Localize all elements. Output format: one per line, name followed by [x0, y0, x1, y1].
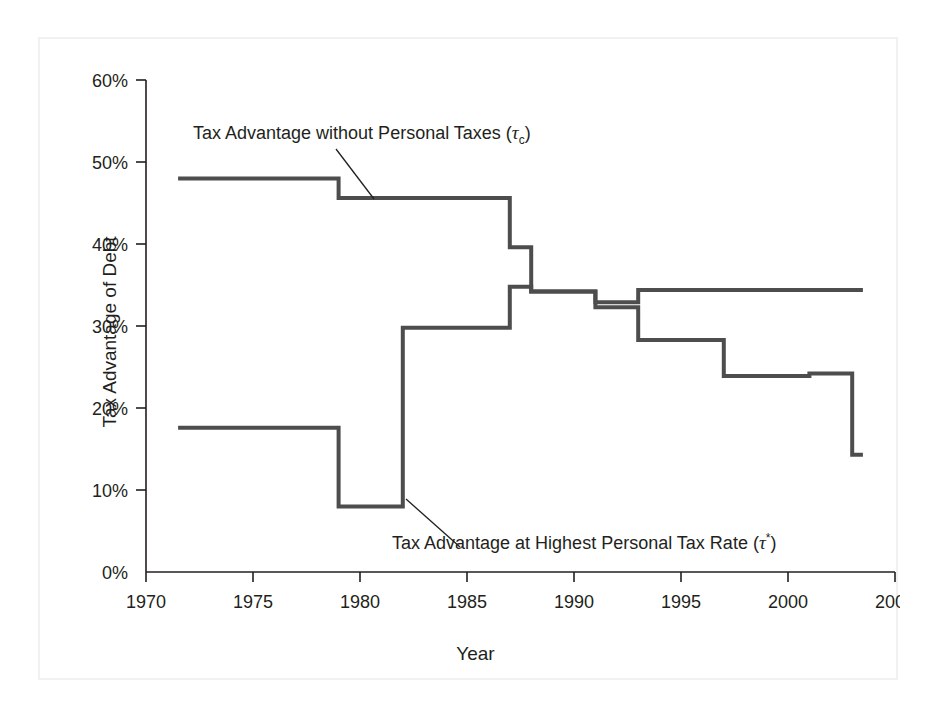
x-tick-label: 1990: [554, 592, 594, 612]
x-axis-title: Year: [0, 643, 951, 665]
y-tick-label: 0%: [102, 563, 128, 583]
lower-series-annotation: Tax Advantage at Highest Personal Tax Ra…: [392, 531, 776, 553]
figure-container: 60% 50% 40% 30% 20% 10% 0% 1970 1975 198…: [0, 0, 951, 716]
upper-annotation-text: Tax Advantage without Personal Taxes (: [193, 123, 512, 143]
y-axis-title: Tax Advantage of Debt: [99, 236, 120, 427]
axis-lines: [146, 80, 895, 572]
x-tick-label: 2000: [768, 592, 808, 612]
x-tick-marks: [146, 572, 895, 582]
upper-annotation-suffix: ): [525, 123, 531, 143]
lower-annotation-suffix: ): [770, 533, 776, 553]
y-tick-marks: [136, 80, 146, 490]
upper-series-annotation: Tax Advantage without Personal Taxes (τc…: [193, 122, 531, 147]
lower-annotation-text: Tax Advantage at Highest Personal Tax Ra…: [392, 533, 759, 553]
x-tick-labels: 1970 1975 1980 1985 1990 1995 2000 2005: [126, 592, 900, 612]
series-line-tax-advantage-without-personal-taxes: [178, 178, 863, 302]
chart-plot-area: 60% 50% 40% 30% 20% 10% 0% 1970 1975 198…: [40, 39, 900, 682]
x-tick-label: 1985: [447, 592, 487, 612]
x-tick-label: 1970: [126, 592, 166, 612]
x-tick-label: 2005: [875, 592, 900, 612]
x-tick-label: 1975: [233, 592, 273, 612]
y-axis-title-wrapper: Tax Advantage of Debt: [99, 202, 125, 462]
x-tick-label: 1980: [340, 592, 380, 612]
y-tick-label: 50%: [92, 153, 128, 173]
y-tick-label: 60%: [92, 71, 128, 91]
upper-label-leader-line: [336, 149, 374, 199]
figure-frame: 60% 50% 40% 30% 20% 10% 0% 1970 1975 198…: [38, 37, 898, 680]
x-tick-label: 1995: [661, 592, 701, 612]
series-line-tax-advantage-highest-personal-tax-rate: [178, 287, 863, 507]
y-tick-label: 10%: [92, 481, 128, 501]
